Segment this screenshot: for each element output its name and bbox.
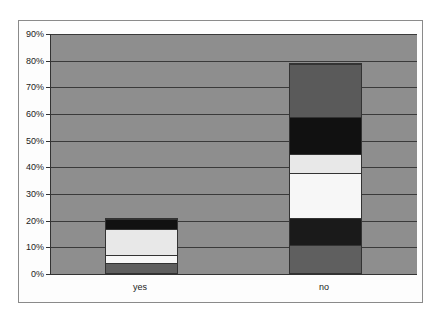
bar-segment bbox=[106, 229, 177, 255]
bar-segment bbox=[290, 218, 361, 246]
y-tick-label: 20% bbox=[20, 216, 44, 226]
plot-area bbox=[50, 34, 417, 275]
y-tick-label: 90% bbox=[20, 29, 44, 39]
gridline bbox=[51, 114, 417, 115]
y-tick-label: 70% bbox=[20, 82, 44, 92]
bar-no bbox=[289, 63, 362, 274]
gridline bbox=[51, 167, 417, 168]
bar-segment bbox=[106, 219, 177, 229]
bar-segment bbox=[106, 255, 177, 263]
bar-segment bbox=[290, 245, 361, 273]
gridline bbox=[51, 61, 417, 62]
y-tick-label: 80% bbox=[20, 56, 44, 66]
y-tick-label: 0% bbox=[20, 269, 44, 279]
y-tick-label: 10% bbox=[20, 242, 44, 252]
bar-segment bbox=[290, 154, 361, 172]
bar-segment bbox=[106, 263, 177, 273]
y-tick-label: 30% bbox=[20, 189, 44, 199]
bar-segment bbox=[290, 117, 361, 154]
bar-segment bbox=[290, 64, 361, 117]
gridline bbox=[51, 34, 417, 35]
y-tick-label: 40% bbox=[20, 162, 44, 172]
bar-segment bbox=[290, 173, 361, 218]
y-tick-label: 60% bbox=[20, 109, 44, 119]
x-tick-label: no bbox=[319, 282, 329, 292]
x-tick-label: yes bbox=[133, 282, 147, 292]
bar-yes bbox=[105, 218, 178, 274]
gridline bbox=[51, 141, 417, 142]
y-tick-label: 50% bbox=[20, 136, 44, 146]
gridline bbox=[51, 87, 417, 88]
gridline bbox=[51, 194, 417, 195]
